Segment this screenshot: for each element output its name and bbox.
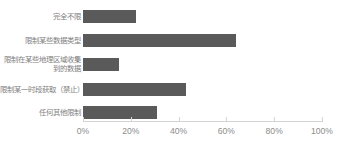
category-label: 完全不限: [0, 12, 81, 21]
x-axis-tick: [131, 117, 132, 122]
x-axis-tick: [226, 117, 227, 122]
category-label: 限制在某些地理区域收集到的数据: [0, 55, 81, 73]
x-axis-tick: [274, 117, 275, 122]
bar[interactable]: [83, 10, 136, 23]
category-label: 任何其他限制: [0, 108, 81, 117]
x-axis-tick-label: 60%: [206, 126, 246, 137]
bar-row: [83, 58, 119, 71]
x-axis-tick-label: 100%: [302, 126, 338, 137]
category-label-gutter: 完全不限 限制某些数据类型 限制在某些地理区域收集到的数据 限制某一时段获取（禁…: [0, 0, 81, 121]
x-axis-line: [83, 121, 322, 122]
x-axis-tick-label: 0%: [63, 126, 103, 137]
x-axis-tick: [83, 117, 84, 122]
bar[interactable]: [83, 106, 157, 119]
x-axis-tick-label: 20%: [111, 126, 151, 137]
x-axis-tick: [179, 117, 180, 122]
x-axis-tick-label: 80%: [254, 126, 294, 137]
bar-row: [83, 106, 157, 119]
plot-area: [83, 0, 322, 121]
category-label: 限制某一时段获取（禁止）: [0, 85, 81, 94]
x-axis-tick-label: 40%: [159, 126, 199, 137]
bar[interactable]: [83, 58, 119, 71]
bar[interactable]: [83, 83, 186, 96]
bar-row: [83, 83, 186, 96]
category-label: 限制某些数据类型: [0, 36, 81, 45]
bar-row: [83, 34, 236, 47]
bar[interactable]: [83, 34, 236, 47]
bar-row: [83, 10, 136, 23]
x-axis-tick: [322, 117, 323, 122]
